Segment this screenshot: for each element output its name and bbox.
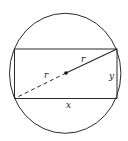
center-point — [64, 71, 68, 75]
radius-solid — [66, 49, 117, 73]
inscribed-rectangle-diagram: r r y x — [0, 0, 128, 141]
label-r-lower: r — [44, 70, 49, 80]
label-r-upper: r — [81, 54, 86, 64]
label-y: y — [108, 71, 115, 81]
label-x: x — [66, 100, 71, 110]
radius-dashed — [15, 73, 67, 99]
